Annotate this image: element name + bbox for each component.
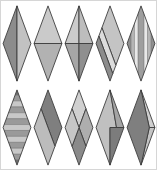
diamond-r1-d1-split-vertical xyxy=(2,5,32,82)
diamond-row-2 xyxy=(1,82,156,166)
diamond-row-1 xyxy=(1,1,156,82)
diamond-r2-d3-four-rhombi xyxy=(64,89,94,166)
diamond-r2-d2-split-diagonal xyxy=(33,89,63,166)
diamond-r2-d5-right-strip xyxy=(126,89,156,166)
diamond-r1-d4-diagonal-bands xyxy=(95,5,125,82)
diamond-r2-d1-horizontal-stripes xyxy=(2,89,32,166)
diamond-r1-d5-vertical-stripes xyxy=(126,5,156,82)
diamond-r2-d4-cube-corner xyxy=(95,89,125,166)
diamond-r1-d2-split-horizontal xyxy=(33,5,63,82)
diamond-pattern-figure xyxy=(0,0,157,170)
diamond-r1-d3-cross-quadrants xyxy=(64,5,94,82)
